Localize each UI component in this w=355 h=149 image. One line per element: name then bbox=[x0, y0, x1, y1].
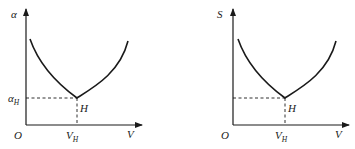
left-curve bbox=[30, 39, 128, 98]
right-origin-label: O bbox=[221, 129, 229, 141]
right-y-label: S bbox=[217, 8, 223, 20]
left-origin-label: O bbox=[14, 129, 22, 141]
diagram-canvas: α αH O VH V H S O VH V H bbox=[0, 0, 355, 149]
right-curve bbox=[238, 39, 336, 98]
right-point-label: H bbox=[287, 102, 297, 114]
left-x-label: V bbox=[127, 128, 135, 140]
left-x-mark: VH bbox=[66, 129, 79, 144]
left-y-mark: αH bbox=[8, 92, 20, 107]
left-chart: α αH O VH V H bbox=[8, 8, 142, 144]
left-y-label: α bbox=[11, 8, 17, 20]
right-x-mark: VH bbox=[275, 129, 288, 144]
right-chart: S O VH V H bbox=[217, 8, 349, 144]
right-x-label: V bbox=[335, 128, 343, 140]
left-point-label: H bbox=[79, 102, 89, 114]
